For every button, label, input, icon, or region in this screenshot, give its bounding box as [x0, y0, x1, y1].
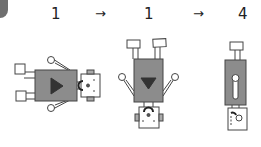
slot-keyhole-icon	[232, 75, 239, 82]
robot-head	[81, 74, 100, 97]
robot-2-figure	[119, 39, 179, 128]
robot-1-figure	[15, 57, 100, 112]
robot-head	[139, 107, 159, 128]
robot-3-figure	[225, 42, 247, 130]
robots-illustration	[0, 0, 261, 147]
